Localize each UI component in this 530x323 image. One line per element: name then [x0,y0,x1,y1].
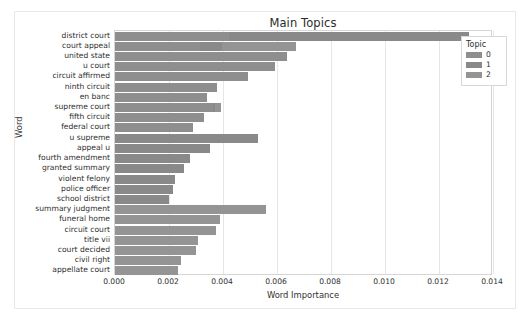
legend-item-topic-2[interactable]: 2 [466,71,502,79]
x-tick-label: 0.000 [103,277,125,286]
bar-segment-topic-0 [115,93,207,102]
y-tick-label: court appeal [62,41,110,50]
bar-segment-topic-0 [115,52,287,61]
bar-segment-topic-1 [115,164,184,173]
bar-row [115,215,493,224]
bar-row [115,205,493,214]
y-tick-label: granted summary [42,163,110,172]
bar-segment-topic-1 [229,32,468,41]
x-tick-label: 0.010 [373,277,395,286]
bar-segment-topic-2 [115,236,198,245]
bar-row [115,134,493,143]
y-tick-label: fifth circuit [69,112,110,121]
bar-row [115,42,493,51]
x-tick-label: 0.004 [211,277,233,286]
y-tick-label: appellate court [52,265,110,274]
y-tick-label: united state [64,51,110,60]
chart-title: Main Topics [114,16,492,30]
y-tick-label: supreme court [55,102,110,111]
bar-row [115,144,493,153]
bar-row [115,62,493,71]
bar-segment-topic-1 [115,144,210,153]
bar-segment-topic-2 [215,103,221,112]
y-axis-tick-labels: district courtcourt appealunited stateu … [24,30,110,275]
bar-segment-topic-0 [115,123,193,132]
legend-item-topic-1[interactable]: 1 [466,61,502,69]
legend-swatch [466,62,482,68]
y-tick-label: school district [57,194,110,203]
plot-area [114,30,492,275]
y-tick-label: u court [83,61,110,70]
y-tick-label: court decided [58,245,110,254]
y-tick-label: district court [62,31,110,40]
bar-segment-topic-2 [115,226,216,235]
bar-row [115,236,493,245]
y-axis-label: Word [14,116,24,138]
legend-swatch [466,72,482,78]
bar-row [115,246,493,255]
legend-label: 0 [486,51,491,59]
bar-row [115,52,493,61]
x-tick-label: 0.012 [427,277,449,286]
y-tick-label: summary judgment [35,204,110,213]
legend-label: 2 [486,71,491,79]
bar-row [115,83,493,92]
y-tick-label: police officer [61,184,110,193]
legend-label: 1 [486,61,491,69]
legend[interactable]: Topic 012 [461,36,507,86]
bar-row [115,185,493,194]
bar-segment-topic-1 [115,175,175,184]
y-tick-label: u supreme [69,133,110,142]
bar-segment-topic-1 [115,195,169,204]
bar-row [115,226,493,235]
legend-title: Topic [466,40,502,49]
bar-segment-topic-1 [115,134,258,143]
bar-segment-topic-0 [115,32,229,41]
bar-row [115,113,493,122]
y-tick-label: circuit affirmed [52,71,110,80]
legend-entries: 012 [466,51,502,79]
bar-segment-topic-1 [115,185,173,194]
bar-segment-topic-2 [222,42,296,51]
x-axis-tick-labels: 0.0000.0020.0040.0060.0080.0100.0120.014 [114,277,492,291]
x-tick-label: 0.006 [265,277,287,286]
bar-row [115,256,493,265]
legend-item-topic-0[interactable]: 0 [466,51,502,59]
bar-segment-topic-0 [115,62,275,71]
bar-segment-topic-0 [115,72,248,81]
bar-row [115,175,493,184]
legend-swatch [466,52,482,58]
y-tick-label: ninth circuit [65,82,110,91]
x-tick-label: 0.008 [319,277,341,286]
figure-canvas: Main Topics Word district courtcourt app… [0,0,530,323]
x-axis-label: Word Importance [114,290,492,300]
bar-segment-topic-0 [115,42,200,51]
y-tick-label: civil right [75,255,110,264]
bar-row [115,93,493,102]
bar-segment-topic-2 [115,215,220,224]
x-tick-label: 0.002 [157,277,179,286]
bar-row [115,266,493,275]
bar-segment-topic-0 [115,103,213,112]
y-tick-label: federal court [61,122,110,131]
bar-segment-topic-2 [115,256,181,265]
bars-layer [115,31,491,274]
bar-segment-topic-0 [115,113,204,122]
bar-segment-topic-2 [115,205,266,214]
bar-row [115,154,493,163]
x-tick-label: 0.014 [481,277,503,286]
bar-segment-topic-2 [115,266,178,275]
bar-row [115,72,493,81]
y-tick-label: circuit court [65,225,110,234]
bar-row [115,32,493,41]
y-tick-label: fourth amendment [38,153,110,162]
bar-row [115,123,493,132]
bar-segment-topic-2 [115,246,196,255]
y-tick-label: title vii [84,235,110,244]
y-tick-label: funeral home [59,214,110,223]
bar-row [115,103,493,112]
bar-segment-topic-1 [115,154,190,163]
y-tick-label: appeal u [77,143,110,152]
bar-segment-topic-1 [200,42,222,51]
y-tick-label: en banc [80,92,110,101]
